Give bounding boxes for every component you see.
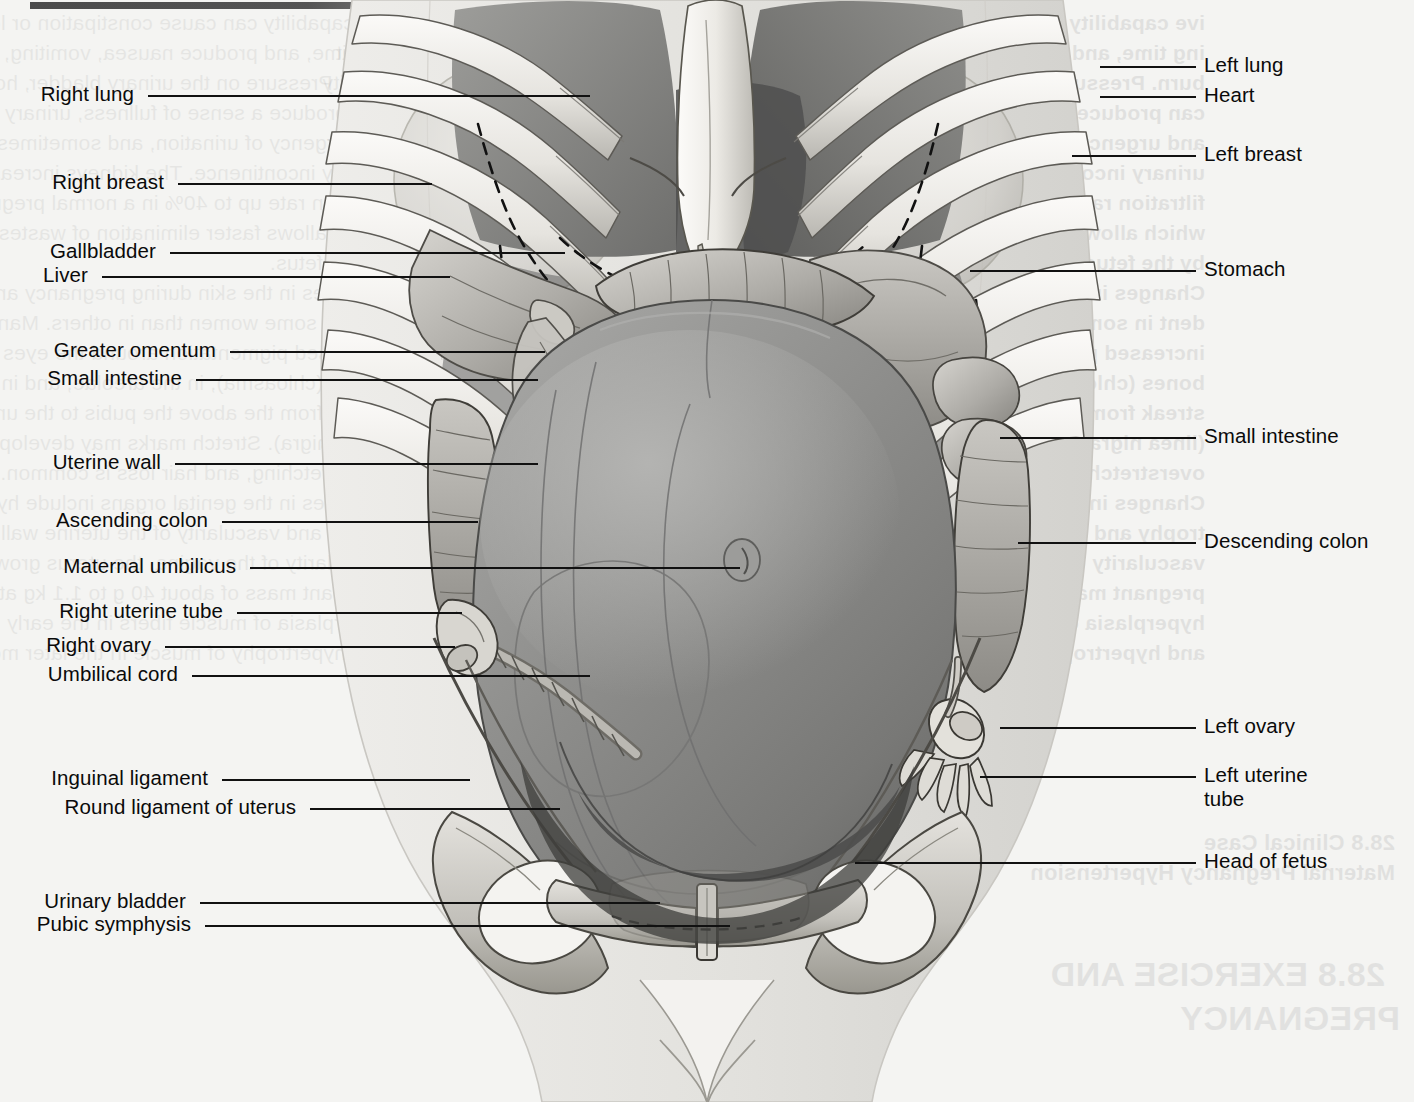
label-head-of-fetus: Head of fetus (1204, 849, 1327, 873)
label-heart: Heart (1204, 83, 1255, 107)
leader-line-right-lung (148, 95, 590, 97)
label-inguinal-ligament: Inguinal ligament (0, 766, 208, 790)
leader-line-uterine-wall (175, 463, 538, 465)
label-descending-colon: Descending colon (1204, 529, 1369, 553)
label-ascending-colon-line-1: Ascending colon (0, 508, 208, 532)
label-pubic-symphysis: Pubic symphysis (0, 912, 191, 936)
leader-line-liver (102, 276, 450, 278)
leader-line-right-ovary (165, 646, 455, 648)
label-left-ovary-line-1: Left ovary (1204, 714, 1295, 738)
leader-line-urinary-bladder (200, 902, 660, 904)
label-greater-omentum: Greater omentum (0, 338, 216, 362)
label-small-intestine-left-line-1: Small intestine (0, 366, 182, 390)
label-inguinal-ligament-line-1: Inguinal ligament (0, 766, 208, 790)
label-left-breast-line-1: Left breast (1204, 142, 1302, 166)
label-left-uterine-tube-line-1: Left uterine (1204, 763, 1308, 787)
leader-line-heart (1100, 96, 1196, 98)
leader-line-umbilical-cord (192, 675, 590, 677)
label-left-uterine-tube: Left uterinetube (1204, 763, 1308, 811)
label-small-intestine-right: Small intestine (1204, 424, 1339, 448)
label-liver: Liver (0, 263, 88, 287)
label-umbilical-cord-line-1: Umbilical cord (0, 662, 178, 686)
label-left-lung: Left lung (1204, 53, 1284, 77)
label-small-intestine-right-line-1: Small intestine (1204, 424, 1339, 448)
leader-line-inguinal-ligament (222, 779, 470, 781)
leader-line-maternal-umbilicus (250, 567, 740, 569)
label-round-ligament-uterus-line-1: Round ligament of uterus (0, 795, 296, 819)
label-liver-line-1: Liver (0, 263, 88, 287)
leader-line-descending-colon (1018, 542, 1196, 544)
label-maternal-umbilicus: Maternal umbilicus (0, 554, 236, 578)
leader-line-greater-omentum (230, 351, 545, 353)
leader-line-right-breast (178, 183, 432, 185)
label-gallbladder-line-1: Gallbladder (0, 239, 156, 263)
anatomical-illustration (0, 0, 1414, 1102)
label-uterine-wall-line-1: Uterine wall (0, 450, 161, 474)
label-uterine-wall: Uterine wall (0, 450, 161, 474)
label-left-uterine-tube-line-2: tube (1204, 787, 1308, 811)
label-maternal-umbilicus-line-1: Maternal umbilicus (0, 554, 236, 578)
leader-line-left-lung (1100, 66, 1196, 68)
leader-line-pubic-symphysis (205, 925, 730, 927)
label-pubic-symphysis-line-1: Pubic symphysis (0, 912, 191, 936)
label-right-lung: Right lung (0, 82, 134, 106)
leader-line-left-breast (1072, 155, 1196, 157)
leader-line-gallbladder (170, 252, 565, 254)
label-right-lung-line-1: Right lung (0, 82, 134, 106)
figure-page: ive capability can cause constipation or… (0, 0, 1414, 1102)
label-greater-omentum-line-1: Greater omentum (0, 338, 216, 362)
label-left-ovary: Left ovary (1204, 714, 1295, 738)
label-right-ovary-line-1: Right ovary (0, 633, 151, 657)
label-right-breast: Right breast (0, 170, 164, 194)
label-umbilical-cord: Umbilical cord (0, 662, 178, 686)
leader-line-small-intestine-left (196, 379, 538, 381)
label-right-uterine-tube: Right uterine tube (0, 599, 223, 623)
label-stomach: Stomach (1204, 257, 1286, 281)
label-heart-line-1: Heart (1204, 83, 1255, 107)
leader-line-right-uterine-tube (237, 612, 462, 614)
label-small-intestine-left: Small intestine (0, 366, 182, 390)
label-urinary-bladder-line-1: Urinary bladder (0, 889, 186, 913)
label-descending-colon-line-1: Descending colon (1204, 529, 1369, 553)
label-stomach-line-1: Stomach (1204, 257, 1286, 281)
label-round-ligament-uterus: Round ligament of uterus (0, 795, 296, 819)
leader-line-ascending-colon (222, 521, 478, 523)
leader-line-head-of-fetus (855, 862, 1196, 864)
label-gallbladder: Gallbladder (0, 239, 156, 263)
label-urinary-bladder: Urinary bladder (0, 889, 186, 913)
label-head-of-fetus-line-1: Head of fetus (1204, 849, 1327, 873)
leader-line-small-intestine-right (1000, 437, 1196, 439)
label-left-lung-line-1: Left lung (1204, 53, 1284, 77)
label-left-breast: Left breast (1204, 142, 1302, 166)
maternal-umbilicus (724, 539, 760, 581)
label-ascending-colon: Ascending colon (0, 508, 208, 532)
leader-line-left-uterine-tube (980, 776, 1196, 778)
label-right-uterine-tube-line-1: Right uterine tube (0, 599, 223, 623)
leader-line-stomach (970, 270, 1196, 272)
leader-line-left-ovary (1000, 727, 1196, 729)
leader-line-round-ligament-uterus (310, 808, 560, 810)
label-right-breast-line-1: Right breast (0, 170, 164, 194)
label-right-ovary: Right ovary (0, 633, 151, 657)
